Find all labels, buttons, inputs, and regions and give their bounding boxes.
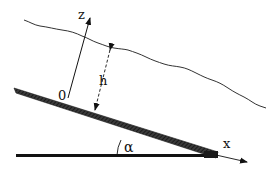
origin-label: 0: [58, 88, 66, 103]
thickness-label: h: [99, 73, 108, 88]
inclined-plate: [14, 88, 218, 158]
inclined-film-diagram: z x 0 h α: [0, 0, 279, 172]
angle-arc: [117, 140, 121, 155]
z-axis-arrow: [68, 18, 90, 98]
x-axis-label: x: [223, 136, 231, 151]
angle-label: α: [124, 139, 134, 155]
z-axis-label: z: [78, 7, 85, 22]
plate-end-cap: [204, 151, 218, 158]
x-axis-arrow: [216, 155, 247, 162]
